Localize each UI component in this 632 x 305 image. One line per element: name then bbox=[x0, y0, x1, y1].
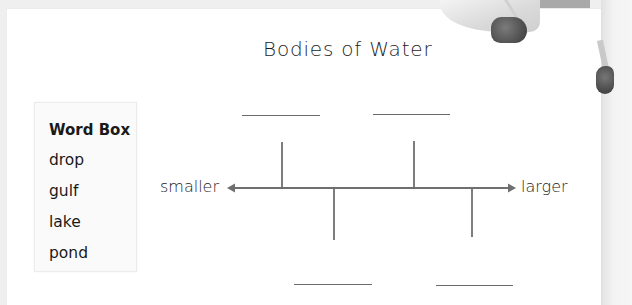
teacher-hand-icon bbox=[491, 17, 527, 43]
word-box-heading: Word Box bbox=[49, 115, 136, 145]
word-box-item: gulf bbox=[49, 176, 136, 207]
worksheet-title: Bodies of Water bbox=[263, 37, 432, 61]
word-box: Word Box drop gulf lake pond bbox=[34, 102, 137, 272]
holding-hand-icon bbox=[596, 66, 614, 94]
answer-blank-1[interactable] bbox=[242, 115, 320, 116]
answer-blank-3[interactable] bbox=[373, 114, 450, 115]
smaller-label: smaller bbox=[160, 177, 219, 196]
word-box-item: drop bbox=[49, 145, 136, 176]
background-edge bbox=[601, 0, 632, 305]
answer-blank-2[interactable] bbox=[294, 284, 372, 285]
word-box-item: pond bbox=[49, 238, 136, 269]
answer-blank-4[interactable] bbox=[436, 285, 513, 286]
larger-label: larger bbox=[521, 177, 568, 196]
word-box-item: lake bbox=[49, 207, 136, 238]
